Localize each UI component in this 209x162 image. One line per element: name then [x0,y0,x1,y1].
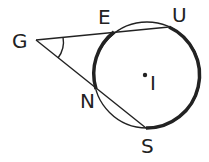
label-s: S [141,134,154,158]
arc-en [94,32,114,89]
secant-gs [36,40,146,128]
center-dot [143,73,147,77]
label-u: U [172,3,187,27]
label-g: G [12,29,28,53]
geometry-diagram: G E U N S I [0,0,209,162]
label-e: E [98,5,111,29]
angle-g-mark [58,37,63,58]
label-n: N [80,89,95,113]
label-i: I [150,71,156,95]
